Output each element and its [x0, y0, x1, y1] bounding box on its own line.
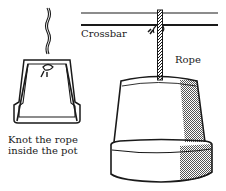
- knot-instruction-line-2: inside the pot: [8, 145, 78, 156]
- pot-hanging-illustration: Crossbar Rope Knot the rope inside the p…: [0, 0, 226, 191]
- rope-label: Rope: [175, 54, 201, 65]
- rope: [148, 10, 164, 80]
- knot-instruction-line-1: Knot the rope: [8, 134, 78, 145]
- small-pot-cutaway: [14, 8, 80, 123]
- crossbar-label: Crossbar: [81, 28, 127, 39]
- crossbar: [81, 13, 218, 25]
- knot-instruction-label: Knot the rope inside the pot: [8, 134, 78, 156]
- big-pot: [111, 77, 212, 183]
